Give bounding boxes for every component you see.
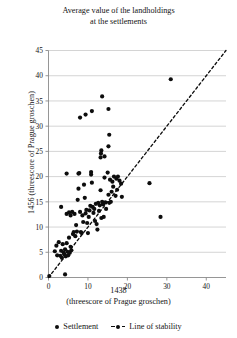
data-point [81, 220, 85, 224]
data-point [76, 171, 80, 175]
data-point [98, 188, 102, 192]
data-point [86, 231, 90, 235]
data-point [65, 171, 69, 175]
data-point [87, 208, 91, 212]
data-point [106, 193, 110, 197]
y-tick-label: 30 [36, 122, 44, 131]
data-point [68, 245, 72, 249]
data-point [83, 196, 87, 200]
data-point [169, 77, 173, 81]
data-point [76, 198, 80, 202]
data-point [109, 200, 113, 204]
chart-figure: Average value of the landholdings at the… [0, 0, 237, 338]
legend-label-line-of-stability: Line of stability [129, 322, 181, 331]
y-axis-label: 1456 (threescore of Prague groschen) [27, 73, 36, 233]
data-point [116, 175, 120, 179]
data-point [87, 215, 91, 219]
data-point [54, 244, 58, 248]
y-tick-label: 5 [39, 248, 43, 257]
settlement-marker-icon [55, 325, 59, 329]
line-of-stability [49, 51, 227, 278]
data-point [95, 227, 99, 231]
x-axis-label: 1438 (threescore of Prague groschen) [0, 286, 237, 307]
chart-legend: Settlement Line of stability [0, 322, 237, 331]
data-point [83, 112, 87, 116]
legend-item-settlement: Settlement [55, 322, 98, 331]
legend-label-settlement: Settlement [63, 322, 98, 331]
data-point [83, 211, 87, 215]
data-point [113, 194, 117, 198]
data-point [102, 215, 106, 219]
y-tick-label: 10 [36, 223, 44, 232]
data-point [78, 115, 82, 119]
y-tick-label: 40 [36, 71, 44, 80]
data-point [91, 211, 95, 215]
data-point [158, 215, 162, 219]
data-point [47, 274, 51, 278]
data-point [111, 185, 115, 189]
y-tick-label: 20 [36, 172, 44, 181]
data-point [147, 181, 151, 185]
data-point [95, 222, 99, 226]
data-point [97, 209, 101, 213]
data-point [61, 242, 65, 246]
data-point [67, 236, 71, 240]
data-point [60, 256, 64, 260]
data-point [73, 234, 77, 238]
data-point [65, 241, 69, 245]
data-point [89, 172, 93, 176]
y-tick-label: 0 [39, 273, 43, 282]
data-point [53, 249, 57, 253]
data-point [90, 181, 94, 185]
data-point [92, 207, 96, 211]
data-point [110, 180, 114, 184]
data-point [107, 133, 111, 137]
data-point [74, 223, 78, 227]
y-tick-label: 15 [36, 198, 44, 207]
data-point [102, 176, 106, 180]
data-point [72, 212, 76, 216]
legend-item-line-of-stability: Line of stability [111, 322, 181, 331]
data-point [104, 207, 108, 211]
data-point [102, 154, 106, 158]
data-point [78, 210, 82, 214]
data-point [106, 144, 110, 148]
data-point [69, 248, 73, 252]
y-tick-label: 35 [36, 97, 44, 106]
data-point [98, 155, 102, 159]
data-point [106, 107, 110, 111]
x-axis-label-line-2: (threescore of Prague groschen) [0, 297, 237, 308]
data-point [85, 221, 89, 225]
data-point [120, 195, 124, 199]
data-point [75, 229, 79, 233]
data-point [57, 240, 61, 244]
data-point [106, 170, 110, 174]
y-tick-label: 45 [36, 46, 44, 55]
data-point [82, 183, 86, 187]
data-point [103, 200, 107, 204]
data-point [119, 182, 123, 186]
data-point [63, 272, 67, 276]
x-axis-label-line-1: 1438 [0, 286, 237, 297]
data-point [80, 231, 84, 235]
data-point [110, 190, 114, 194]
data-point [59, 205, 63, 209]
data-point [100, 94, 104, 98]
y-tick-label: 25 [36, 147, 44, 156]
line-of-stability-marker-icon [111, 325, 125, 329]
data-point [90, 109, 94, 113]
data-point [99, 151, 103, 155]
data-point [115, 188, 119, 192]
data-point [76, 187, 80, 191]
